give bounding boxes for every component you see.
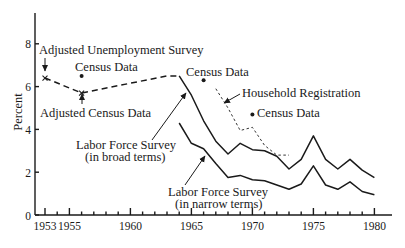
point-dot-census-data <box>250 112 254 116</box>
unemployment-rate-chart: 1953195519601965197019751980 02468 Perce… <box>0 0 405 248</box>
y-axis-tick-labels: 02468 <box>25 38 31 221</box>
x-axis-tick-labels: 1953195519601965197019751980 <box>34 220 387 232</box>
y-tick-label: 4 <box>25 124 31 136</box>
y-tick-label: 0 <box>25 210 31 222</box>
annotation-adjusted-census-data: Adjusted Census Data <box>40 106 152 120</box>
x-tick-label: 1955 <box>58 220 81 232</box>
x-tick-label: 1960 <box>119 220 142 232</box>
y-tick-label: 6 <box>25 81 31 93</box>
y-tick-label: 8 <box>25 38 31 50</box>
arrow-household-registration <box>224 94 240 103</box>
arrow-lfs-narrow <box>185 156 205 185</box>
annotation-census-1970: Census Data <box>257 106 320 120</box>
x-tick-label: 1980 <box>363 220 386 232</box>
annotation-census-1966: Census Data <box>186 65 249 79</box>
arrow-lfs-broad <box>152 93 186 140</box>
annotation-adjusted-unemployment-survey: Adjusted Unemployment Survey <box>39 43 204 57</box>
annotation-lfs-broad-line2: (in broad terms) <box>85 150 166 164</box>
x-tick-label: 1970 <box>241 220 264 232</box>
x-tick-label: 1965 <box>180 220 203 232</box>
y-tick-label: 2 <box>25 167 31 179</box>
x-tick-label: 1975 <box>302 220 325 232</box>
series-line-adjusted-unemployment-survey-adjusted-census-data <box>45 76 179 93</box>
series-line-labor-force-survey-in-narrow-terms <box>179 123 374 195</box>
point-dot-census-data <box>80 74 84 78</box>
annotation-census-1956: Census Data <box>75 60 138 74</box>
y-axis-label: Percent <box>11 93 25 131</box>
annotation-household-registration: Household Registration <box>242 86 361 100</box>
x-tick-label: 1953 <box>34 220 57 232</box>
annotation-lfs-narrow-line2: (in narrow terms) <box>175 197 262 211</box>
